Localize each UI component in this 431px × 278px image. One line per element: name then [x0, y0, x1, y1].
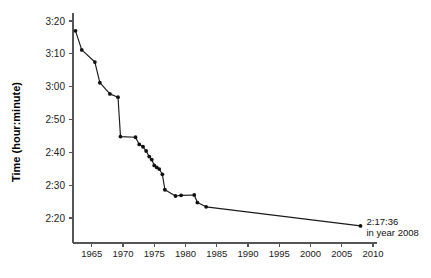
chart-container: Time (hour:minute) 3:203:103:002:502:402…	[0, 0, 431, 278]
axis-tick-marks	[69, 21, 373, 247]
x-tick-label: 1990	[237, 248, 258, 259]
data-point	[359, 224, 363, 228]
data-point	[74, 29, 78, 33]
data-point	[134, 135, 138, 139]
data-point	[141, 145, 145, 149]
x-tick-label: 1980	[175, 248, 196, 259]
x-tick-label: 2010	[362, 248, 383, 259]
x-tick-label: 1995	[269, 248, 290, 259]
y-tick-label: 2:30	[46, 180, 66, 191]
y-tick-label: 3:20	[46, 16, 66, 27]
y-tick-label: 2:50	[46, 114, 66, 125]
data-point	[144, 149, 148, 153]
record-progression-line	[76, 31, 361, 226]
annotation-year-text: in year 2008	[367, 227, 419, 238]
x-tick-label: 1985	[206, 248, 227, 259]
data-point	[150, 158, 154, 162]
x-tick-label: 1975	[144, 248, 165, 259]
x-tick-label: 2000	[300, 248, 321, 259]
data-point	[204, 205, 208, 209]
annotation-time-text: 2:17:36	[367, 216, 399, 227]
data-point	[179, 193, 183, 197]
data-point	[195, 201, 199, 205]
data-point	[98, 81, 102, 85]
data-point	[160, 172, 164, 176]
y-tick-label: 3:10	[46, 48, 66, 59]
y-axis-title: Time (hour:minute)	[10, 82, 22, 182]
y-tick-label: 3:00	[46, 81, 66, 92]
data-point	[116, 95, 120, 99]
x-tick-label: 1970	[112, 248, 133, 259]
line-chart: Time (hour:minute) 3:203:103:002:502:402…	[0, 0, 431, 278]
data-point	[157, 167, 161, 171]
data-point-markers	[74, 29, 363, 228]
x-axis-tick-labels: 1965197019751980198519901995200020052010	[81, 248, 383, 259]
y-axis-title-group: Time (hour:minute)	[10, 82, 22, 182]
data-point	[174, 194, 178, 198]
data-point	[137, 143, 141, 147]
data-point	[147, 155, 151, 159]
y-axis-tick-labels: 3:203:103:002:502:402:302:20	[46, 16, 66, 224]
data-point	[108, 92, 112, 96]
data-point	[119, 135, 123, 139]
data-point	[93, 60, 97, 64]
y-tick-label: 2:40	[46, 147, 66, 158]
data-point	[163, 188, 167, 192]
data-point	[80, 48, 84, 52]
x-tick-label: 1965	[81, 248, 102, 259]
x-tick-label: 2005	[331, 248, 352, 259]
y-tick-label: 2:20	[46, 213, 66, 224]
data-point	[192, 193, 196, 197]
final-record-annotation: 2:17:36 in year 2008	[367, 216, 419, 238]
